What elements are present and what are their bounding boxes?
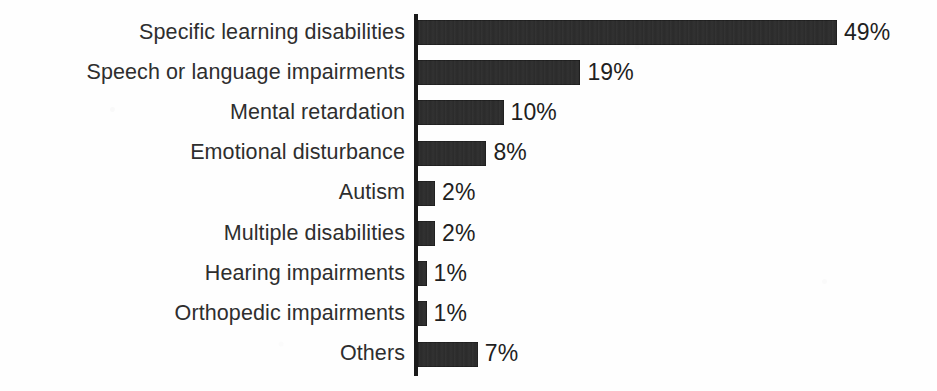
bar-row: Others7%	[0, 342, 937, 367]
bar-row: Hearing impairments1%	[0, 261, 937, 286]
bar-row: Mental retardation10%	[0, 100, 937, 125]
bar-row: Specific learning disabilities49%	[0, 20, 937, 45]
bar	[418, 221, 435, 246]
bar-value-label: 1%	[434, 262, 467, 285]
bar	[418, 181, 435, 206]
bar-value-label: 2%	[442, 222, 475, 245]
bar	[418, 20, 837, 45]
bar-chart: Specific learning disabilities49%Speech …	[0, 0, 937, 391]
bar-value-label: 49%	[844, 21, 890, 44]
bar-value-label: 10%	[511, 101, 557, 124]
category-label: Hearing impairments	[205, 263, 405, 285]
bar	[418, 141, 486, 166]
plot-area: Specific learning disabilities49%Speech …	[0, 0, 937, 391]
bar-row: Autism2%	[0, 181, 937, 206]
category-label: Specific learning disabilities	[139, 22, 405, 44]
bar	[418, 261, 427, 286]
bar-row: Speech or language impairments19%	[0, 60, 937, 85]
category-label: Orthopedic impairments	[175, 303, 405, 325]
bar	[418, 100, 504, 125]
category-label: Autism	[339, 182, 405, 204]
bar-row: Emotional disturbance8%	[0, 141, 937, 166]
bar-value-label: 8%	[493, 141, 526, 164]
bar-value-label: 2%	[442, 181, 475, 204]
bar	[418, 60, 580, 85]
bar-value-label: 7%	[485, 342, 518, 365]
category-label: Mental retardation	[230, 102, 405, 124]
category-label: Multiple disabilities	[224, 223, 405, 245]
bar	[418, 301, 427, 326]
category-label: Others	[340, 343, 405, 365]
bar-value-label: 1%	[434, 302, 467, 325]
category-label: Speech or language impairments	[86, 62, 405, 84]
category-label: Emotional disturbance	[190, 142, 405, 164]
bar-value-label: 19%	[587, 61, 633, 84]
bar-row: Orthopedic impairments1%	[0, 301, 937, 326]
bar-row: Multiple disabilities2%	[0, 221, 937, 246]
bar	[418, 342, 478, 367]
